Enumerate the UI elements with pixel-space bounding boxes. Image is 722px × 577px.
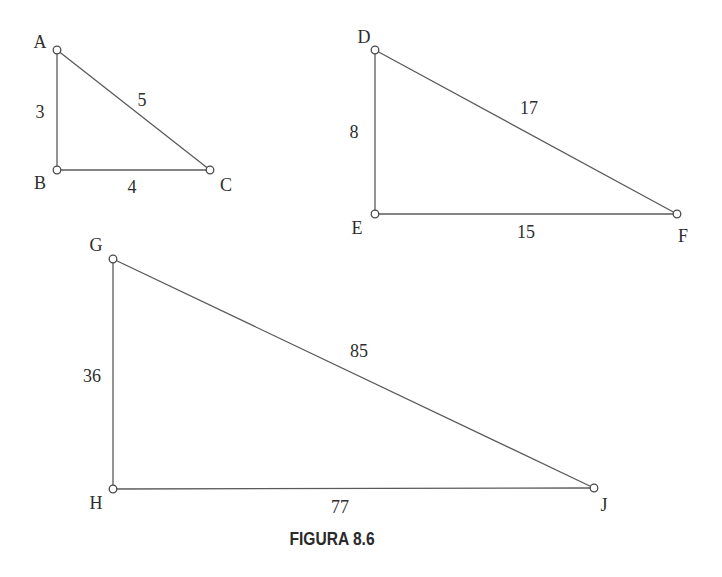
- triangle-def: D E F 8 17 15: [350, 27, 689, 246]
- side-gj-length: 85: [350, 341, 368, 361]
- side-de-length: 8: [350, 122, 359, 142]
- side-df-length: 17: [520, 98, 538, 118]
- side-ab-length: 3: [36, 102, 45, 122]
- side-bc-length: 4: [128, 177, 137, 197]
- vertex-d-label: D: [358, 27, 371, 47]
- vertex-f-label: F: [678, 226, 688, 246]
- side-df: [375, 50, 677, 214]
- side-hj: [113, 488, 594, 489]
- vertex-b-label: B: [34, 173, 46, 193]
- vertex-j-marker: [590, 484, 598, 492]
- vertex-a-label: A: [34, 32, 47, 52]
- vertex-e-label: E: [352, 218, 363, 238]
- side-gh-length: 36: [83, 366, 101, 386]
- vertex-g-label: G: [90, 235, 103, 255]
- vertex-f-marker: [673, 210, 681, 218]
- vertex-c-marker: [206, 166, 214, 174]
- side-ef-length: 15: [517, 222, 535, 242]
- vertex-j-label: J: [600, 495, 607, 515]
- side-hj-length: 77: [331, 497, 349, 517]
- vertex-a-marker: [53, 46, 61, 54]
- side-ac-length: 5: [138, 90, 147, 110]
- vertex-b-marker: [53, 166, 61, 174]
- vertex-e-marker: [371, 210, 379, 218]
- right-triangles-figure: A B C 3 5 4 D E F 8 17 15 G H J 36 85 77: [0, 0, 722, 577]
- side-gj: [113, 259, 594, 488]
- vertex-d-marker: [371, 46, 379, 54]
- vertex-c-label: C: [220, 175, 232, 195]
- triangle-ghj: G H J 36 85 77: [83, 235, 608, 517]
- side-ac: [57, 50, 210, 170]
- vertex-g-marker: [109, 255, 117, 263]
- triangle-abc: A B C 3 5 4: [34, 32, 233, 197]
- vertex-h-marker: [109, 485, 117, 493]
- vertex-h-label: H: [90, 493, 103, 513]
- figure-caption: FIGURA 8.6: [60, 528, 604, 550]
